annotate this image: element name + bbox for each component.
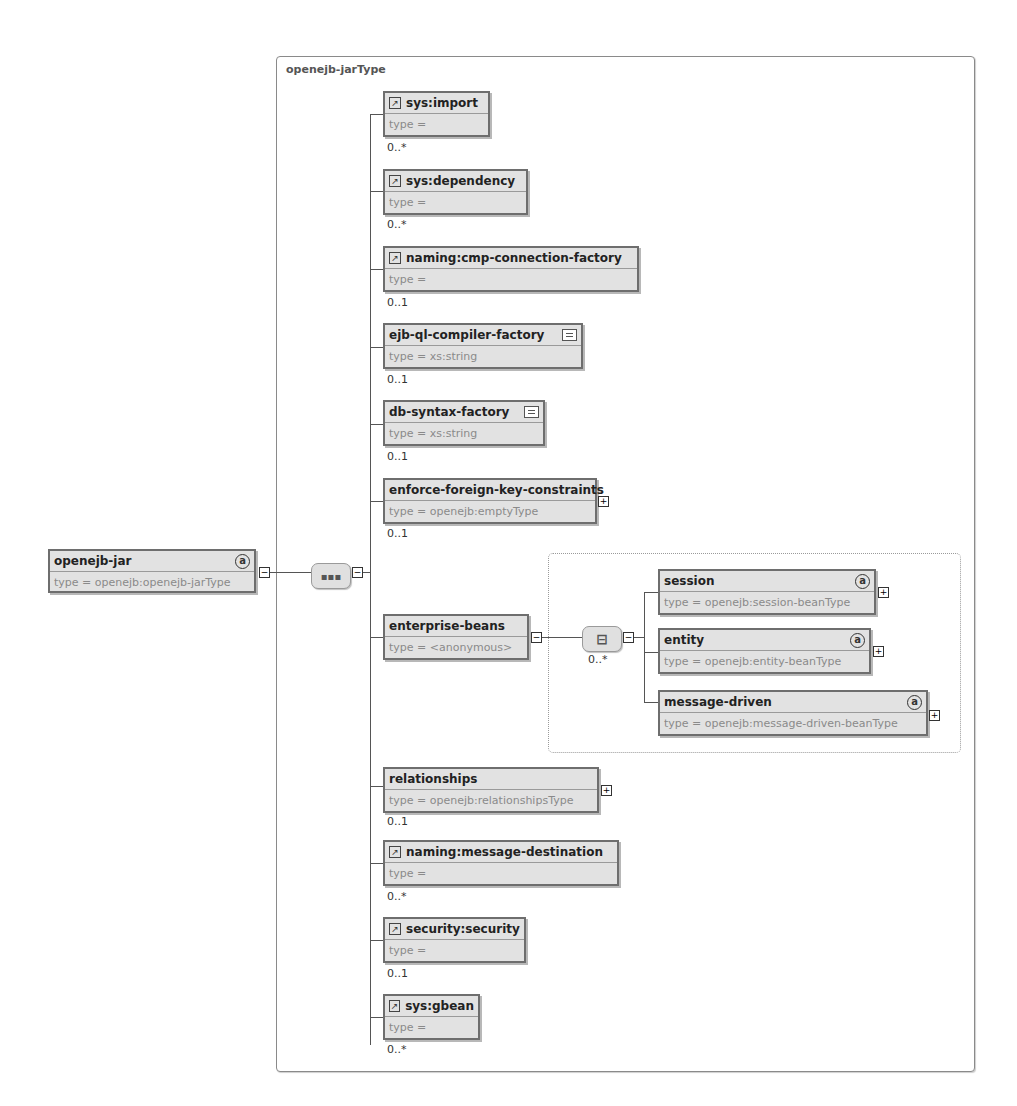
element-name: naming:cmp-connection-factory	[406, 251, 633, 265]
cardinality: 0..*	[387, 890, 407, 903]
element-name: message-driven	[664, 695, 903, 709]
element-type: type = <anonymous>	[385, 637, 527, 657]
element-type: type =	[385, 1017, 478, 1037]
simple-type-icon	[562, 329, 577, 341]
frame-title: openejb-jarType	[286, 63, 386, 76]
element-session[interactable]: sessiona type = openejb:session-beanType	[658, 569, 876, 615]
attributes-icon: a	[855, 574, 870, 589]
connector	[644, 652, 658, 653]
element-type: type = xs:string	[385, 346, 581, 366]
element-db-syntax-factory[interactable]: db-syntax-factory type = xs:string	[383, 400, 545, 446]
choice-cardinality: 0..*	[588, 653, 608, 666]
connector	[370, 637, 383, 638]
cardinality: 0..1	[387, 373, 408, 386]
element-type: type = openejb:entity-beanType	[660, 651, 869, 671]
connector	[644, 702, 658, 703]
connector	[644, 592, 658, 593]
cardinality: 0..1	[387, 296, 408, 309]
collapse-enterprise-beans-button[interactable]: −	[531, 632, 542, 643]
element-type: type =	[385, 863, 617, 883]
connector	[370, 940, 383, 941]
attributes-icon: a	[907, 695, 922, 710]
expand-button[interactable]: +	[929, 710, 940, 721]
element-name: sys:gbean	[405, 999, 474, 1013]
connector	[542, 637, 582, 638]
cardinality: 0..1	[387, 527, 408, 540]
element-type: type =	[385, 269, 637, 289]
element-ejb-ql-compiler-factory[interactable]: ejb-ql-compiler-factory type = xs:string	[383, 323, 583, 369]
element-type: type =	[385, 940, 524, 960]
cardinality: 0..*	[387, 218, 407, 231]
element-sys-import[interactable]: ↗sys:import type =	[383, 91, 490, 137]
element-name: naming:message-destination	[406, 845, 613, 859]
root-element-openejb-jar[interactable]: openejb-jara type = openejb:openejb-jarT…	[48, 549, 256, 593]
cardinality: 0..*	[387, 141, 407, 154]
collapse-sequence-button[interactable]: −	[352, 567, 363, 578]
connector	[370, 269, 383, 270]
connector	[370, 863, 383, 864]
element-entity[interactable]: entitya type = openejb:entity-beanType	[658, 628, 871, 674]
simple-type-icon	[524, 406, 539, 418]
element-type: type = openejb:relationshipsType	[385, 790, 597, 810]
choice-spine	[644, 592, 645, 702]
element-name: db-syntax-factory	[389, 405, 518, 419]
connector	[370, 424, 383, 425]
element-sys-gbean[interactable]: ↗sys:gbean type =	[383, 994, 480, 1040]
element-naming-message-destination[interactable]: ↗naming:message-destination type =	[383, 840, 619, 886]
reference-icon: ↗	[389, 1000, 400, 1012]
reference-icon: ↗	[389, 923, 401, 935]
reference-icon: ↗	[389, 846, 401, 858]
attributes-icon: a	[850, 633, 865, 648]
element-name: enterprise-beans	[389, 619, 523, 633]
element-name: sys:dependency	[406, 174, 522, 188]
expand-button[interactable]: +	[598, 496, 609, 507]
element-message-driven[interactable]: message-drivena type = openejb:message-d…	[658, 690, 928, 736]
choice-compositor-icon[interactable]: ⊟	[582, 626, 622, 652]
connector	[370, 1017, 383, 1018]
connector	[634, 637, 644, 638]
element-type: type = xs:string	[385, 423, 543, 443]
cardinality: 0..1	[387, 450, 408, 463]
expand-button[interactable]: +	[873, 646, 884, 657]
connector	[370, 786, 383, 787]
element-security-security[interactable]: ↗security:security type =	[383, 917, 526, 963]
element-relationships[interactable]: relationships type = openejb:relationshi…	[383, 767, 599, 813]
element-type: type = openejb:openejb-jarType	[50, 572, 254, 592]
connector	[370, 501, 383, 502]
reference-icon: ↗	[389, 175, 401, 187]
connector	[370, 114, 383, 115]
reference-icon: ↗	[389, 252, 401, 264]
element-name: relationships	[389, 772, 593, 786]
element-name: sys:import	[406, 96, 484, 110]
element-name: enforce-foreign-key-constraints	[389, 483, 604, 497]
cardinality: 0..1	[387, 967, 408, 980]
connector	[370, 347, 383, 348]
element-name: session	[664, 574, 851, 588]
cardinality: 0..1	[387, 815, 408, 828]
collapse-root-button[interactable]: −	[259, 567, 270, 578]
connector	[270, 572, 312, 573]
element-type: type =	[385, 114, 488, 134]
element-type: type = openejb:message-driven-beanType	[660, 713, 926, 733]
connector	[370, 191, 383, 192]
element-enforce-foreign-key-constraints[interactable]: enforce-foreign-key-constraints type = o…	[383, 478, 597, 524]
element-name: security:security	[406, 922, 520, 936]
element-naming-cmp-connection-factory[interactable]: ↗naming:cmp-connection-factory type =	[383, 246, 639, 292]
reference-icon: ↗	[389, 97, 401, 109]
element-sys-dependency[interactable]: ↗sys:dependency type =	[383, 169, 528, 215]
cardinality: 0..*	[387, 1043, 407, 1056]
expand-button[interactable]: +	[601, 785, 612, 796]
sequence-spine	[370, 114, 371, 1045]
connector	[363, 572, 370, 573]
element-type: type =	[385, 192, 526, 212]
element-type: type = openejb:session-beanType	[660, 592, 874, 612]
element-name: ejb-ql-compiler-factory	[389, 328, 556, 342]
attributes-icon: a	[235, 554, 250, 569]
expand-button[interactable]: +	[878, 587, 889, 598]
element-enterprise-beans[interactable]: enterprise-beans type = <anonymous>	[383, 614, 529, 660]
collapse-choice-button[interactable]: −	[623, 632, 634, 643]
sequence-compositor-icon[interactable]: ▪▪▪	[311, 563, 351, 589]
element-name: entity	[664, 633, 846, 647]
element-type: type = openejb:emptyType	[385, 501, 595, 521]
element-name: openejb-jar	[54, 554, 231, 568]
